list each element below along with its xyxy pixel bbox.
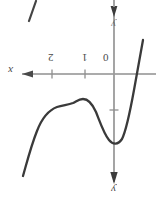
- math-graph-figure: 2 1 0 x y y: [0, 0, 158, 198]
- graph-canvas: [0, 0, 158, 198]
- y-axis-label-top: y: [111, 19, 116, 30]
- stray-diagonal-mark: [29, 1, 36, 21]
- x-tick-label-2: 2: [48, 52, 54, 63]
- y-axis-label-bottom: y: [111, 184, 116, 195]
- x-tick-label-1: 1: [82, 52, 88, 63]
- x-axis-label: x: [8, 65, 13, 76]
- x-tick-label-0: 0: [103, 52, 109, 63]
